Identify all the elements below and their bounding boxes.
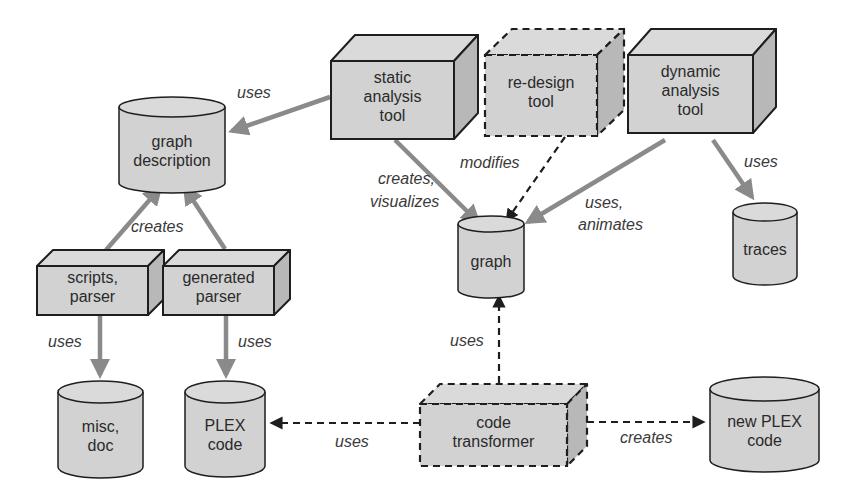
redesign-tool-label-line: re-design xyxy=(508,74,575,91)
graph-label-line: graph xyxy=(471,253,512,270)
static-analysis-tool-label-line: analysis xyxy=(364,88,422,105)
code-transformer-label-line: code xyxy=(476,414,511,431)
graph-description-label-line: description xyxy=(133,152,210,169)
edge-label: creates xyxy=(131,218,183,235)
edge-label: visualizes xyxy=(370,193,439,210)
edge-label: creates xyxy=(620,429,672,446)
edge-label: animates xyxy=(578,216,643,233)
node-graph[interactable]: graph xyxy=(458,216,524,298)
box-top-face xyxy=(163,250,290,266)
edge-generated-parser-to-graph-description[interactable] xyxy=(185,188,225,249)
scripts-parser-label-line: scripts, xyxy=(67,269,118,286)
box-top-face xyxy=(420,384,587,404)
plex-code-label-line: PLEX xyxy=(205,417,246,434)
edge-static-analysis-tool-to-graph-description[interactable] xyxy=(232,97,330,131)
new-plex-code-label-line: new PLEX xyxy=(727,413,802,430)
edge-label: uses xyxy=(335,433,369,450)
code-transformer-label-line: transformer xyxy=(453,433,535,450)
datastore-top xyxy=(710,377,819,401)
box-top-face xyxy=(37,250,164,266)
datastore-top xyxy=(458,216,524,232)
datastore-body xyxy=(185,392,265,477)
edge-label: modifies xyxy=(460,154,520,171)
misc-doc-label-line: misc, xyxy=(82,418,119,435)
node-redesign-tool[interactable]: re-designtool xyxy=(485,29,624,136)
datastore-top xyxy=(58,381,143,403)
node-graph-description[interactable]: graphdescription xyxy=(119,97,225,193)
scripts-parser-label-line: parser xyxy=(70,288,116,305)
misc-doc-label-line: doc xyxy=(88,437,114,454)
datastore-body xyxy=(119,107,225,193)
node-static-analysis-tool[interactable]: staticanalysistool xyxy=(331,35,478,139)
node-dynamic-analysis-tool[interactable]: dynamicanalysistool xyxy=(628,29,776,133)
node-scripts-parser[interactable]: scripts,parser xyxy=(37,250,164,315)
edge-label: uses xyxy=(744,153,778,170)
generated-parser-label-line: parser xyxy=(196,288,242,305)
edge-label: uses xyxy=(450,332,484,349)
traces-label-line: traces xyxy=(743,241,787,258)
datastore-top xyxy=(733,203,797,221)
static-analysis-tool-label-line: static xyxy=(374,69,411,86)
redesign-tool-label-line: tool xyxy=(528,93,554,110)
box-top-face xyxy=(331,35,478,61)
new-plex-code-label-line: code xyxy=(747,432,782,449)
node-plex-code[interactable]: PLEXcode xyxy=(185,381,265,477)
node-generated-parser[interactable]: generatedparser xyxy=(163,250,290,315)
dynamic-analysis-tool-label-line: analysis xyxy=(662,82,720,99)
node-traces[interactable]: traces xyxy=(733,203,797,285)
edge-label: uses, xyxy=(585,194,623,211)
edge-label: uses xyxy=(48,333,82,350)
graph-description-label-line: graph xyxy=(152,133,193,150)
generated-parser-label-line: generated xyxy=(182,269,254,286)
diagram-canvas: graphdescriptionstaticanalysistoolre-des… xyxy=(0,0,846,498)
edge-label: uses xyxy=(237,84,271,101)
dynamic-analysis-tool-label-line: dynamic xyxy=(661,63,721,80)
node-misc-doc[interactable]: misc,doc xyxy=(58,381,143,478)
edge-label: uses xyxy=(238,333,272,350)
nodes-layer: graphdescriptionstaticanalysistoolre-des… xyxy=(37,29,819,478)
node-code-transformer[interactable]: codetransformer xyxy=(420,384,587,466)
plex-code-label-line: code xyxy=(208,436,243,453)
datastore-top xyxy=(119,97,225,117)
static-analysis-tool-label-line: tool xyxy=(380,107,406,124)
datastore-body xyxy=(58,392,143,478)
dynamic-analysis-tool-label-line: tool xyxy=(678,101,704,118)
datastore-top xyxy=(185,381,265,403)
node-new-plex-code[interactable]: new PLEXcode xyxy=(710,377,819,472)
edge-label: creates, xyxy=(378,170,435,187)
box-top-face xyxy=(628,29,776,55)
